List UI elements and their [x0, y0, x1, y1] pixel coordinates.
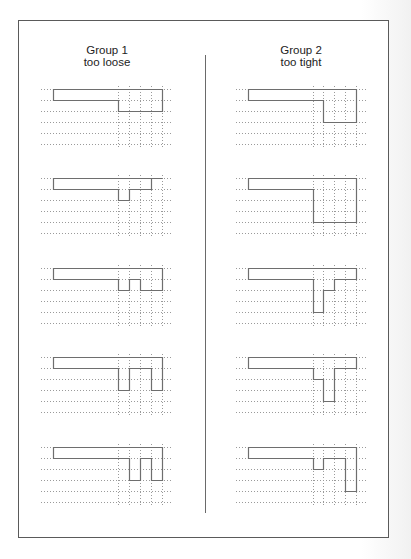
- group-1-panel-1: [41, 86, 173, 147]
- group-2-panel-1: [236, 86, 367, 147]
- group-1-panel-5: [41, 444, 173, 505]
- diagram-canvas: [0, 0, 411, 559]
- group-2-panel-2: [236, 175, 367, 236]
- panels: [41, 86, 367, 505]
- shape-outline: [54, 448, 163, 481]
- group-2-panel-4: [236, 354, 367, 415]
- group-2-panel-5: [236, 444, 367, 505]
- shape-outline: [54, 358, 163, 391]
- group-1-panel-3: [41, 265, 173, 326]
- group-1-panel-2: [41, 175, 173, 236]
- group-2-panel-3: [236, 265, 367, 326]
- group-1-panel-4: [41, 354, 173, 415]
- shape-outline: [249, 90, 357, 123]
- shape-outline: [54, 179, 163, 201]
